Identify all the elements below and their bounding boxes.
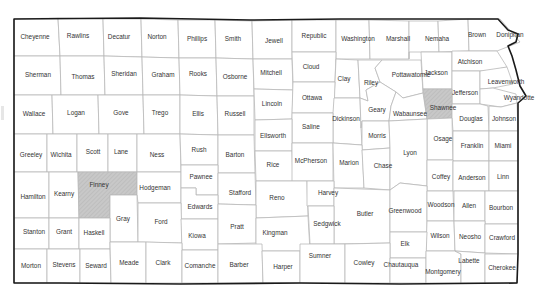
county-label-lyon: Lyon bbox=[403, 149, 417, 157]
county-label-ness: Ness bbox=[150, 151, 165, 158]
county-label-ellis: Ellis bbox=[192, 110, 204, 117]
county-label-gray: Gray bbox=[116, 215, 131, 223]
county-jefferson[interactable] bbox=[452, 71, 480, 104]
county-label-norton: Norton bbox=[147, 33, 167, 40]
county-label-jackson: Jackson bbox=[424, 69, 448, 76]
county-label-mitchell: Mitchell bbox=[260, 69, 282, 76]
county-label-phillips: Phillips bbox=[187, 35, 207, 43]
county-label-rooks: Rooks bbox=[189, 70, 207, 77]
county-label-meade: Meade bbox=[119, 259, 139, 266]
county-label-clay: Clay bbox=[338, 75, 352, 83]
county-label-barber: Barber bbox=[229, 261, 249, 268]
county-label-washington: Washington bbox=[341, 35, 375, 43]
county-label-neosho: Neosho bbox=[459, 233, 481, 240]
county-label-kiowa: Kiowa bbox=[188, 232, 206, 239]
county-label-sherman: Sherman bbox=[25, 71, 51, 78]
county-label-wallace: Wallace bbox=[23, 110, 46, 117]
county-label-montgomery: Montgomery bbox=[425, 268, 461, 276]
county-label-sedgwick: Sedgwick bbox=[313, 220, 341, 228]
county-label-seward: Seward bbox=[85, 262, 107, 269]
county-label-kingman: Kingman bbox=[262, 229, 288, 237]
county-label-stevens: Stevens bbox=[52, 261, 75, 268]
county-label-wyandotte: Wyandotte bbox=[504, 94, 535, 102]
county-label-saline: Saline bbox=[302, 123, 320, 130]
county-label-doniphan: Doniphan bbox=[496, 31, 524, 39]
county-label-trego: Trego bbox=[152, 109, 169, 117]
county-label-pawnee: Pawnee bbox=[189, 173, 213, 180]
county-label-douglas: Douglas bbox=[459, 115, 482, 123]
county-label-nemaha: Nemaha bbox=[425, 35, 450, 42]
county-label-gove: Gove bbox=[113, 109, 129, 116]
county-label-decatur: Decatur bbox=[108, 33, 131, 40]
county-sumner[interactable] bbox=[300, 244, 345, 283]
county-label-mcpherson: McPherson bbox=[295, 157, 328, 164]
county-label-johnson: Johnson bbox=[492, 115, 517, 122]
county-label-ford: Ford bbox=[154, 218, 168, 225]
county-label-coffey: Coffey bbox=[432, 173, 451, 181]
county-label-hamilton: Hamilton bbox=[20, 193, 46, 200]
county-label-allen: Allen bbox=[462, 202, 477, 209]
county-label-sumner: Sumner bbox=[309, 252, 332, 259]
county-label-wilson: Wilson bbox=[430, 232, 450, 239]
county-label-jefferson: Jefferson bbox=[452, 89, 479, 96]
county-label-elk: Elk bbox=[401, 240, 411, 247]
county-label-morris: Morris bbox=[368, 132, 386, 139]
county-label-franklin: Franklin bbox=[461, 142, 484, 149]
county-label-chase: Chase bbox=[374, 162, 393, 169]
county-label-rush: Rush bbox=[192, 146, 207, 153]
county-label-harper: Harper bbox=[273, 263, 293, 271]
county-label-marion: Marion bbox=[339, 159, 359, 166]
county-label-pratt: Pratt bbox=[230, 223, 244, 230]
county-label-stafford: Stafford bbox=[229, 189, 252, 196]
county-label-wichita: Wichita bbox=[51, 151, 72, 158]
county-label-lane: Lane bbox=[114, 148, 129, 155]
county-label-sheridan: Sheridan bbox=[111, 70, 137, 77]
county-label-greenwood: Greenwood bbox=[388, 207, 421, 214]
county-label-rawlins: Rawlins bbox=[67, 32, 89, 39]
county-label-leavenworth: Leavenworth bbox=[488, 78, 525, 85]
county-label-chautauqua: Chautauqua bbox=[384, 261, 419, 269]
county-label-rice: Rice bbox=[267, 161, 280, 168]
kansas-county-map: CheyenneRawlinsDecaturNortonPhillipsSmit… bbox=[0, 0, 535, 299]
county-label-graham: Graham bbox=[151, 71, 174, 78]
county-label-thomas: Thomas bbox=[71, 73, 94, 80]
county-label-smith: Smith bbox=[225, 35, 242, 42]
county-label-anderson: Anderson bbox=[458, 174, 486, 181]
county-label-cheyenne: Cheyenne bbox=[20, 33, 50, 41]
county-label-brown: Brown bbox=[468, 31, 487, 38]
county-label-wabaunsee: Wabaunsee bbox=[393, 110, 427, 117]
county-label-lincoln: Lincoln bbox=[262, 100, 283, 107]
county-label-finney: Finney bbox=[89, 181, 109, 189]
county-label-crawford: Crawford bbox=[489, 234, 515, 241]
county-label-labette: Labette bbox=[458, 257, 480, 264]
county-label-linn: Linn bbox=[497, 173, 510, 180]
county-label-marshall: Marshall bbox=[386, 35, 410, 42]
county-label-riley: Riley bbox=[364, 79, 379, 87]
county-label-haskell: Haskell bbox=[84, 229, 105, 236]
county-rooks[interactable] bbox=[179, 58, 217, 96]
county-label-edwards: Edwards bbox=[188, 203, 213, 210]
county-label-osborne: Osborne bbox=[223, 73, 248, 80]
county-label-geary: Geary bbox=[368, 106, 386, 114]
county-label-kearny: Kearny bbox=[54, 190, 75, 198]
county-label-comanche: Comanche bbox=[185, 262, 216, 269]
county-label-cloud: Cloud bbox=[303, 63, 320, 70]
county-label-scott: Scott bbox=[86, 148, 101, 155]
county-label-harvey: Harvey bbox=[318, 189, 339, 197]
county-label-miami: Miami bbox=[494, 142, 511, 149]
county-label-clark: Clark bbox=[156, 259, 172, 266]
county-label-atchison: Atchison bbox=[458, 58, 483, 65]
county-chase[interactable] bbox=[362, 148, 390, 190]
county-label-cherokee: Cherokee bbox=[488, 264, 516, 271]
county-label-republic: Republic bbox=[302, 32, 328, 40]
county-label-barton: Barton bbox=[226, 151, 245, 158]
county-label-russell: Russell bbox=[225, 110, 246, 117]
county-label-cowley: Cowley bbox=[354, 259, 376, 267]
county-label-shawnee: Shawnee bbox=[430, 104, 457, 111]
county-label-reno: Reno bbox=[269, 194, 285, 201]
county-label-logan: Logan bbox=[67, 109, 85, 117]
county-label-osage: Osage bbox=[434, 135, 453, 143]
county-label-butler: Butler bbox=[357, 210, 375, 217]
county-label-morton: Morton bbox=[21, 262, 41, 269]
county-label-hodgeman: Hodgeman bbox=[139, 184, 171, 192]
